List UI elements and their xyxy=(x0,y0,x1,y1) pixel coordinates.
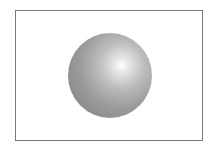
shaded-sphere xyxy=(68,33,152,118)
